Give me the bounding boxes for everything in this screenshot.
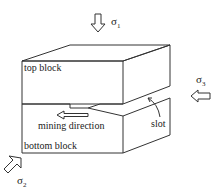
mining-direction-arrow xyxy=(57,111,88,119)
slot-notch xyxy=(70,104,123,108)
top-block-label: top block xyxy=(24,63,62,73)
slot-top-edge xyxy=(123,86,170,104)
slot-inner xyxy=(88,108,123,116)
top-block-side-face xyxy=(123,45,170,86)
mining-direction-label: mining direction xyxy=(38,121,104,131)
slot-bottom-edge xyxy=(123,98,170,116)
slot-label: slot xyxy=(151,119,165,129)
sigma1-label: σ1 xyxy=(111,16,120,30)
sigma2-label: σ2 xyxy=(17,175,26,189)
sigma2-arrow-icon xyxy=(4,156,21,173)
bottom-block-label: bottom block xyxy=(24,141,77,151)
sigma3-arrow-icon xyxy=(191,90,210,102)
sigma3-label: σ3 xyxy=(196,74,205,88)
sigma1-arrow-icon xyxy=(91,14,105,32)
